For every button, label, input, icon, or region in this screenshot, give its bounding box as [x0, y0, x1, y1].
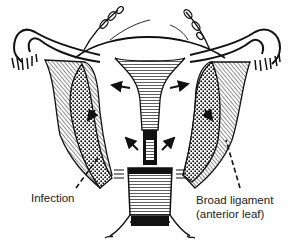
broad-ligament-label-line1: Broad ligament: [196, 193, 273, 207]
uterine-cavity: [115, 58, 185, 130]
broad-ligament-leader-line: [226, 140, 240, 188]
broad-ligament-label-line2: (anterior leaf): [196, 207, 273, 221]
infection-label: Infection: [31, 191, 74, 205]
cervix: [128, 168, 172, 215]
broad-ligament-label: Broad ligament (anterior leaf): [196, 193, 273, 221]
anatomy-figure: Infection Broad ligament (anterior leaf): [0, 0, 291, 245]
